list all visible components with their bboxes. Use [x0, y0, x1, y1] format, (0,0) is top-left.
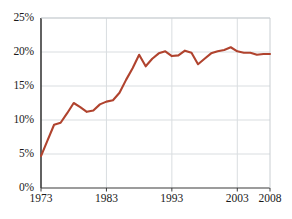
y-tick-label: 25% — [4, 12, 34, 23]
line-chart: 0%5%10%15%20%25% 19731983199320032008 — [0, 0, 292, 219]
x-tick-label: 1983 — [86, 192, 126, 204]
y-tick-label: 10% — [4, 114, 34, 125]
y-tick-label: 20% — [4, 46, 34, 57]
chart-canvas — [0, 0, 292, 219]
y-tick-label: 15% — [4, 80, 34, 91]
y-tick-label: 5% — [4, 148, 34, 159]
x-tick-label: 1973 — [21, 192, 61, 204]
data-series-line — [41, 47, 270, 156]
x-tick-label: 2008 — [250, 192, 290, 204]
x-tick-label: 1993 — [152, 192, 192, 204]
